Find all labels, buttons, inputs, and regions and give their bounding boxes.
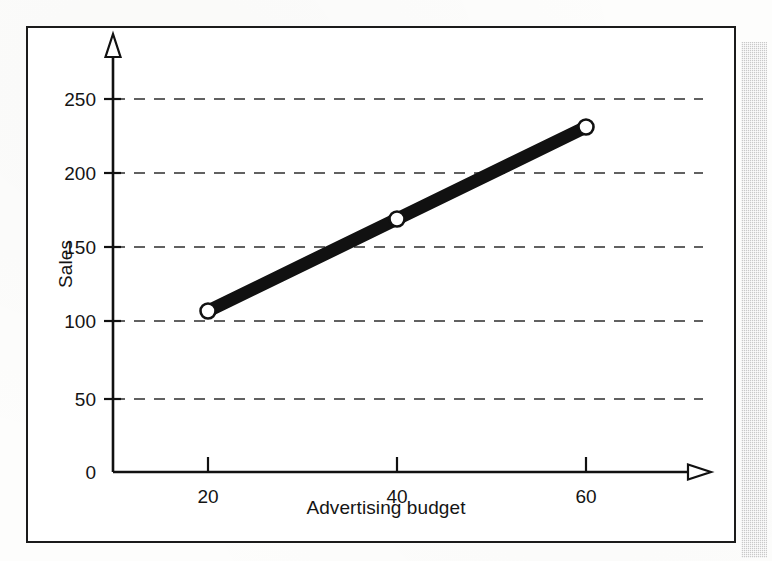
frame-drop-shadow [741,42,767,558]
x-axis-title: Advertising budget [0,497,772,519]
y-tick-label-50: 50 [75,389,96,410]
data-point-marker[interactable] [201,304,216,319]
axis-lines [113,57,688,472]
chart-svg-canvas: 250 200 150 100 50 0 20 40 60 [26,26,740,546]
x-axis-arrow-icon [688,465,711,480]
gridlines-horizontal [114,99,703,399]
chart-plot-area: 250 200 150 100 50 0 20 40 60 [26,26,740,546]
y-tick-label-0: 0 [85,462,96,483]
data-point-marker[interactable] [579,120,594,135]
y-tick-label-250: 250 [64,89,96,110]
x-axis-ticks [208,457,586,473]
series-sales[interactable] [201,120,594,319]
data-point-marker[interactable] [390,212,405,227]
y-axis-arrow-icon [106,34,121,57]
figure-container: 250 200 150 100 50 0 20 40 60 [0,0,772,561]
y-axis-title: Sales [55,194,77,334]
y-tick-label-200: 200 [64,163,96,184]
